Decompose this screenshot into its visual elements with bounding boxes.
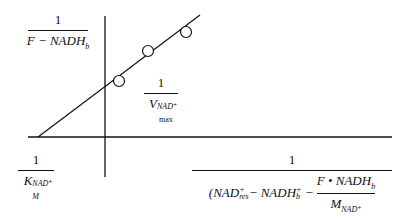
inner-fraction: F • NADHb MNAD⁺: [317, 173, 375, 213]
inner-numerator: F • NADHb: [317, 173, 375, 191]
x-intercept-denominator: KNAD⁺M: [24, 171, 49, 189]
x-axis-label-denominator: (NAD+res − NADH+b − F • NADHb MNAD⁺: [209, 171, 375, 213]
y-intercept-denominator: VNAD⁺max: [149, 94, 173, 112]
x-intercept-numerator: 1: [33, 152, 40, 170]
x-axis-label-numerator: 1: [289, 152, 296, 170]
y-intercept-numerator: 1: [158, 75, 165, 93]
data-point-1: [114, 76, 125, 87]
data-point-2: [143, 46, 154, 57]
data-point-3: [181, 27, 192, 38]
x-intercept-label: 1 KNAD⁺M: [18, 152, 54, 189]
y-axis-label-denominator: F − NADHb: [27, 31, 90, 51]
y-intercept-label: 1 VNAD⁺max: [144, 75, 178, 112]
y-axis-label: 1 F − NADHb: [28, 12, 88, 51]
y-axis-label-numerator: 1: [55, 12, 62, 30]
inner-fraction-bar: [317, 193, 375, 194]
inner-denominator: MNAD⁺: [330, 196, 361, 214]
x-axis-label: 1 (NAD+res − NADH+b − F • NADHb MNAD⁺: [192, 152, 392, 213]
